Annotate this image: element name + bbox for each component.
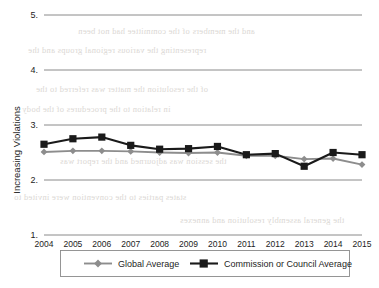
square-marker-icon	[214, 143, 221, 150]
x-axis-tick-label: 2005	[63, 239, 82, 249]
diamond-marker-icon	[301, 156, 308, 163]
diamond-marker-icon	[359, 161, 366, 168]
square-marker-icon	[243, 151, 250, 158]
legend-item-commission-or-council-average[interactable]: Commission or Council Average	[190, 259, 352, 269]
y-axis-tick-label: 3.	[30, 120, 38, 130]
diamond-marker-icon	[214, 149, 221, 156]
square-marker-icon	[329, 149, 336, 156]
diamond-marker-icon	[70, 147, 77, 154]
square-marker-icon	[185, 145, 192, 152]
x-axis-tick-label: 2010	[208, 239, 227, 249]
x-axis-tick-label: 2009	[179, 239, 198, 249]
line-chart: 1.2.3.4.5. 20042005200620072008200920102…	[0, 0, 379, 288]
series-global-average	[41, 147, 366, 168]
x-axis-tick-label: 2012	[266, 239, 285, 249]
data-series-layer	[40, 134, 365, 170]
x-axis-tick-label: 2004	[35, 239, 54, 249]
y-axis-tick-label: 5.	[30, 10, 38, 20]
x-axis-tick-label: 2008	[150, 239, 169, 249]
diamond-marker-icon	[127, 148, 134, 155]
x-axis-tick-label: 2006	[92, 239, 111, 249]
diamond-marker-icon	[41, 149, 48, 156]
y-axis-tick-labels: 1.2.3.4.5.	[30, 10, 38, 240]
square-marker-icon	[200, 259, 208, 267]
legend-label-commission-or-council-average: Commission or Council Average	[224, 259, 352, 269]
diamond-marker-icon	[94, 260, 102, 268]
x-axis-tick-label: 2014	[324, 239, 343, 249]
x-axis-tick-label: 2013	[295, 239, 314, 249]
square-marker-icon	[272, 150, 279, 157]
x-axis-tick-labels: 2004200520062007200820092010201120122013…	[35, 239, 372, 249]
square-marker-icon	[98, 134, 105, 141]
square-marker-icon	[358, 151, 365, 158]
x-axis-tick-label: 2011	[237, 239, 256, 249]
legend-item-global-average[interactable]: Global Average	[84, 259, 179, 269]
square-marker-icon	[301, 163, 308, 170]
diamond-marker-icon	[98, 147, 105, 154]
x-axis-tick-label: 2007	[121, 239, 140, 249]
y-axis-tick-label: 2.	[30, 175, 38, 185]
x-axis-tick-label: 2015	[353, 239, 372, 249]
y-axis-tick-label: 4.	[30, 65, 38, 75]
y-axis-title: Increasing Violations	[11, 106, 22, 194]
square-marker-icon	[40, 141, 47, 148]
legend-label-global-average: Global Average	[118, 259, 179, 269]
square-marker-icon	[69, 135, 76, 142]
square-marker-icon	[156, 146, 163, 153]
square-marker-icon	[127, 142, 134, 149]
chart-legend: Global Average Commission or Council Ave…	[61, 251, 352, 277]
gridlines	[44, 15, 362, 235]
diamond-marker-icon	[330, 155, 337, 162]
chart-figure: and the members of the committee had not…	[0, 0, 379, 288]
